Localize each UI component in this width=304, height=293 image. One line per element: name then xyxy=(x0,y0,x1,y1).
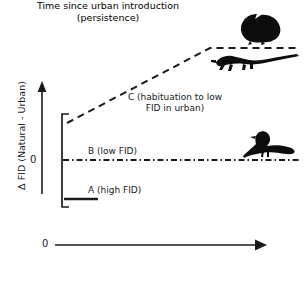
y-axis-arrow xyxy=(38,81,47,194)
y-axis-label: Δ FID (Natural - Urban) xyxy=(16,71,27,201)
x-axis-arrow xyxy=(55,240,267,251)
rodent-icon xyxy=(241,14,281,45)
bird-icon xyxy=(243,131,295,158)
y-axis-zero-label: 0 xyxy=(30,154,36,165)
series-c-label-line1: C (habituation to low xyxy=(128,92,222,102)
fid-persistence-figure: Δ FID (Natural - Urban) 0 C (habituation… xyxy=(0,0,304,293)
figure-canvas xyxy=(0,0,304,293)
lizard-icon xyxy=(211,54,299,71)
series-c-label-line2: FID in urban) xyxy=(146,103,205,113)
x-axis-zero-label: 0 xyxy=(42,238,48,249)
series-b-label: B (low FID) xyxy=(88,146,137,157)
series-c-label: C (habituation to low FID in urban) xyxy=(120,92,230,114)
series-a-label: A (high FID) xyxy=(88,185,141,196)
